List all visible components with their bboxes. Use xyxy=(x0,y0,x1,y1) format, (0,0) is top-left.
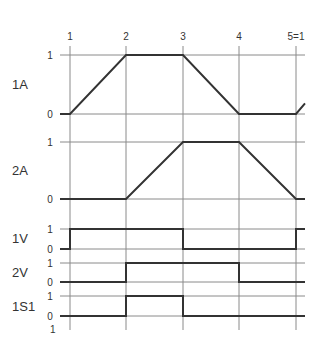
bottom-level-label: 1 xyxy=(50,324,56,335)
level-label: 1 xyxy=(47,224,53,235)
step-label: 1 xyxy=(67,31,73,42)
row-label: 2V xyxy=(12,265,28,280)
step-label: 2 xyxy=(123,31,129,42)
level-label: 0 xyxy=(47,311,53,322)
row-label: 1V xyxy=(12,231,28,246)
diagram-canvas: 12345=1 101A102A101V102V101S1 1 xyxy=(0,0,323,354)
level-label: 1 xyxy=(47,137,53,148)
signal-trace xyxy=(60,296,305,316)
step-label: 4 xyxy=(236,31,242,42)
step-labels: 12345=1 xyxy=(67,31,305,42)
level-label: 1 xyxy=(47,291,53,302)
step-label: 5=1 xyxy=(288,31,305,42)
signal-row-1a: 101A xyxy=(12,50,305,120)
signal-trace xyxy=(60,229,305,249)
signal-row-2a: 102A xyxy=(12,137,305,205)
row-label: 2A xyxy=(12,163,28,178)
level-label: 0 xyxy=(47,277,53,288)
level-label: 1 xyxy=(47,50,53,61)
displacement-step-diagram: 12345=1 101A102A101V102V101S1 1 xyxy=(0,0,323,354)
level-label: 0 xyxy=(47,109,53,120)
row-label: 1S1 xyxy=(12,299,35,314)
level-label: 0 xyxy=(47,244,53,255)
step-label: 3 xyxy=(180,31,186,42)
signal-rows: 101A102A101V102V101S1 xyxy=(12,50,305,322)
level-label: 0 xyxy=(47,194,53,205)
row-label: 1A xyxy=(12,77,28,92)
level-label: 1 xyxy=(47,258,53,269)
step-gridlines xyxy=(70,46,296,330)
